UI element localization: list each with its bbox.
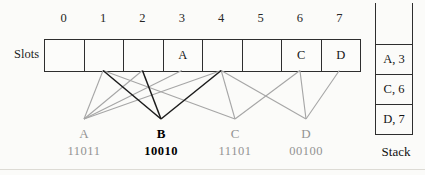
key-label-A: A	[79, 126, 88, 142]
edge-C-slot1	[103, 71, 235, 120]
stack-entry-1: C, 6	[376, 74, 412, 104]
slot-index-7: 7	[336, 11, 342, 26]
key-binary-B: 10010	[144, 144, 178, 159]
stack-entry-0: A, 3	[376, 44, 412, 74]
slot-cell-1	[85, 40, 125, 71]
key-binary-A: 11011	[68, 144, 101, 159]
hash-edges-graphic	[0, 0, 425, 175]
edge-C-slot4	[221, 71, 235, 120]
key-label-C: C	[231, 126, 240, 142]
slot-index-2: 2	[139, 11, 145, 26]
page-rule-line	[0, 169, 425, 170]
edge-A-slot1	[84, 71, 103, 120]
slot-cell-4	[203, 40, 243, 71]
slot-cell-7: D	[322, 40, 361, 71]
slot-cell-5	[243, 40, 283, 71]
slot-index-0: 0	[61, 11, 67, 26]
slot-index-5: 5	[257, 11, 263, 26]
slot-index-4: 4	[218, 11, 224, 26]
key-binary-C: 11101	[219, 144, 252, 159]
edge-B-slot1	[103, 71, 161, 120]
edge-D-slot7	[306, 71, 339, 120]
key-binary-D: 00100	[289, 144, 323, 159]
stack: A, 3C, 6D, 7	[375, 3, 413, 135]
slot-index-3: 3	[179, 11, 185, 26]
stack-entry-2: D, 7	[376, 104, 412, 135]
edge-C-slot6	[235, 71, 300, 120]
slot-cell-0	[45, 40, 85, 71]
edge-D-slot4	[221, 71, 306, 120]
slots-label: Slots	[14, 47, 39, 62]
stack-label: Stack	[382, 144, 411, 160]
stack-cells: A, 3C, 6D, 7	[376, 44, 412, 135]
slot-index-1: 1	[100, 11, 106, 26]
edge-A-slot4	[84, 71, 221, 120]
stack-empty-slot	[376, 3, 412, 44]
hashing-figure: 01234567 Slots ACD A11011B10010C11101D00…	[0, 0, 425, 175]
edge-B-slot4	[161, 71, 221, 120]
slot-index-6: 6	[297, 11, 303, 26]
slot-cell-2	[124, 40, 164, 71]
slot-array: ACD	[44, 39, 361, 72]
slot-cell-6: C	[282, 40, 322, 71]
edge-A-slot3	[84, 71, 182, 120]
edge-D-slot6	[300, 71, 306, 120]
edge-B-slot2	[142, 71, 161, 120]
key-label-B: B	[157, 126, 166, 142]
key-label-D: D	[301, 126, 310, 142]
slot-cell-3: A	[164, 40, 204, 71]
edge-A-slot2	[84, 71, 142, 120]
